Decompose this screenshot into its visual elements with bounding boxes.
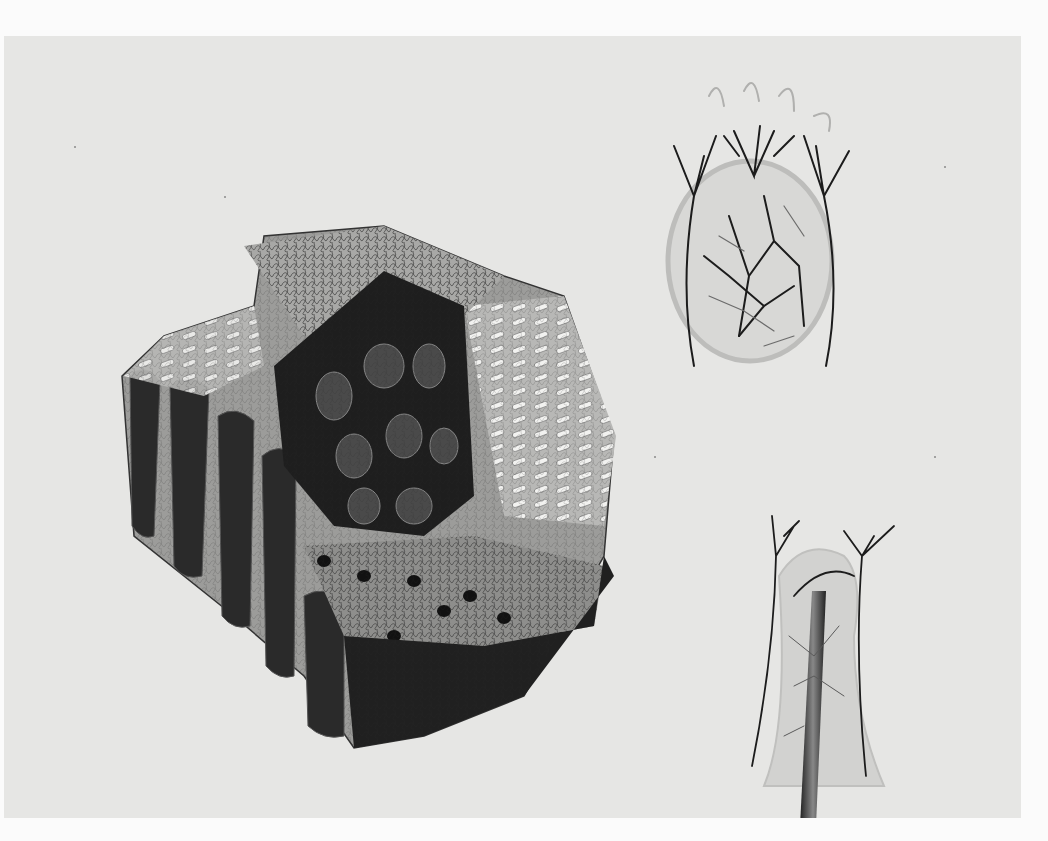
paper-speck xyxy=(944,166,946,168)
main-mucosa-figure xyxy=(122,226,616,748)
top-right-vessel-figure xyxy=(668,83,849,366)
bottom-right-tube-figure xyxy=(752,516,894,818)
paper-speck xyxy=(74,146,76,148)
paper-speck xyxy=(654,456,656,458)
paper-speck xyxy=(934,456,936,458)
illustration-plate xyxy=(4,36,1021,818)
plate-artwork xyxy=(4,36,1021,818)
paper-speck xyxy=(224,196,226,198)
